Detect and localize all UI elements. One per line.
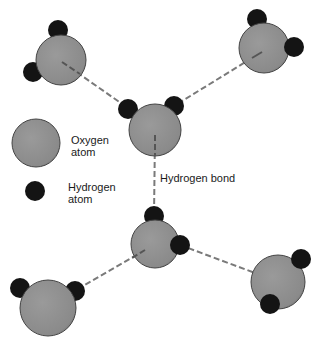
hydrogen-label-line2: atom: [68, 193, 116, 205]
legend-hydrogen-swatch: [25, 181, 45, 201]
bond-bottomright: [180, 245, 255, 273]
hydrogen-atom: [170, 235, 190, 255]
water-molecule-topleft: [23, 20, 86, 85]
oxygen-atom: [36, 35, 86, 85]
water-molecule-center-top: [118, 96, 184, 156]
hydrogen-bond-label: Hydrogen bond: [160, 172, 235, 184]
hydrogen-atom: [260, 294, 280, 314]
hydrogen-atom: [291, 249, 311, 269]
oxygen-label-line1: Oxygen: [71, 134, 109, 146]
water-molecule-topright: [239, 9, 304, 73]
water-molecule-bottomleft: [10, 278, 85, 336]
water-molecule-center-bottom: [131, 206, 190, 268]
legend-oxygen-swatch: [12, 119, 60, 167]
oxygen-label-line2: atom: [71, 146, 109, 158]
bond-topright: [174, 58, 252, 106]
hydrogen-atom: [284, 37, 304, 57]
water-molecule-bottomright: [251, 249, 311, 314]
hydrogen-label-line1: Hydrogen: [68, 181, 116, 193]
oxygen-atom: [239, 23, 289, 73]
legend: [12, 119, 60, 201]
legend-hydrogen-label: Hydrogen atom: [68, 181, 116, 205]
oxygen-atom: [20, 280, 76, 336]
legend-oxygen-label: Oxygen atom: [71, 134, 109, 158]
